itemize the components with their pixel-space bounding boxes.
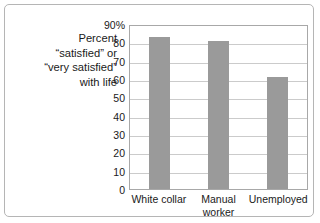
x-axis-category-label: Unemployed: [248, 193, 308, 218]
y-axis-tick-label: 90%: [93, 19, 125, 31]
chart-figure: Percent “satisfied” or “very satisfied” …: [4, 4, 314, 217]
plot-area: [129, 25, 308, 190]
y-axis-ticks: 90%80706050403020100: [93, 19, 125, 197]
y-axis-tick-label: 30: [93, 129, 125, 141]
y-axis-tick-label: 10: [93, 166, 125, 178]
x-axis-category-label-line: worker: [189, 206, 249, 219]
bar-slot: [189, 26, 248, 189]
bar-series: [130, 26, 307, 189]
x-axis-category-label-line: White collar: [129, 193, 189, 206]
y-axis-tick-label: 40: [93, 111, 125, 123]
y-axis-tick-label: 50: [93, 92, 125, 104]
x-axis-category-label-line: Unemployed: [248, 193, 308, 206]
bar-slot: [248, 26, 307, 189]
bar-slot: [130, 26, 189, 189]
bar[interactable]: [208, 41, 229, 190]
x-axis-category-label-line: Manual: [189, 193, 249, 206]
x-axis-category-label: White collar: [129, 193, 189, 218]
y-axis-tick-label: 0: [93, 184, 125, 196]
bar[interactable]: [149, 37, 170, 189]
y-axis-tick-label: 60: [93, 74, 125, 86]
y-axis-tick-label: 80: [93, 37, 125, 49]
x-axis-labels: White collarManualworkerUnemployed: [129, 193, 308, 218]
y-axis-tick-label: 20: [93, 147, 125, 159]
bar[interactable]: [267, 77, 288, 189]
x-axis-category-label: Manualworker: [189, 193, 249, 218]
y-axis-tick-label: 70: [93, 56, 125, 68]
